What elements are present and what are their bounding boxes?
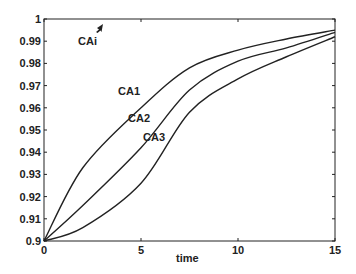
cai-arrow-icon (96, 24, 103, 33)
y-tick-label: 0.94 (20, 146, 42, 158)
y-tick-label: 0.91 (20, 213, 41, 225)
line-chart: 0.90.910.920.930.940.950.960.970.980.991… (0, 0, 356, 274)
y-tick-label: 0.97 (20, 80, 41, 92)
y-tick-label: 0.93 (20, 168, 41, 180)
y-tick-label: 0.98 (20, 57, 41, 69)
ca2-label: CA2 (128, 112, 150, 124)
y-tick-label: 0.95 (20, 124, 41, 136)
curves (44, 30, 335, 241)
plot-frame (44, 19, 335, 241)
curve-ca2 (44, 32, 335, 241)
x-tick-label: 0 (41, 244, 47, 256)
y-tick-label: 0.9 (26, 235, 41, 247)
x-axis: 051015 (41, 19, 341, 256)
ca1-label: CA1 (118, 85, 140, 97)
y-tick-label: 0.92 (20, 191, 41, 203)
y-tick-label: 1 (35, 13, 41, 25)
ca3-label: CA3 (143, 131, 165, 143)
curve-ca1 (44, 30, 335, 241)
x-tick-label: 5 (138, 244, 144, 256)
x-tick-label: 15 (329, 244, 341, 256)
x-tick-label: 10 (232, 244, 244, 256)
y-tick-label: 0.96 (20, 102, 41, 114)
cai-label: CAi (78, 35, 97, 47)
y-tick-label: 0.99 (20, 35, 41, 47)
x-axis-label: time (176, 252, 199, 264)
